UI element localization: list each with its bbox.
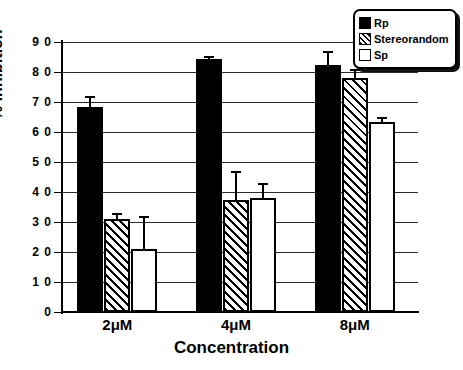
legend-label: Rp — [374, 17, 389, 29]
error-bar-sp-4μM — [262, 183, 264, 198]
error-bar-sp-2μM — [143, 216, 145, 249]
error-cap-rp-2μM — [85, 96, 95, 98]
open-white-icon — [359, 49, 371, 61]
y-tick-label-50: 5 0 — [18, 157, 52, 167]
y-tick-80 — [54, 72, 62, 73]
error-bar-rp-8μM — [327, 51, 329, 65]
error-cap-rp-4μM — [204, 56, 214, 58]
chart-legend: RpStereorandomSp — [353, 9, 457, 69]
bar-sp-8μM — [369, 122, 395, 313]
bar-rp-2μM — [77, 107, 103, 313]
legend-label: Stereorandom — [374, 33, 449, 45]
y-tick-label-30: 3 0 — [18, 217, 52, 227]
y-tick-label-40: 4 0 — [18, 187, 52, 197]
y-tick-0 — [54, 312, 62, 313]
y-tick-label-0: 0 — [18, 307, 52, 317]
y-tick-40 — [54, 192, 62, 193]
bar-chart-figure: % Inhibition 01 02 03 04 05 06 07 08 09 … — [0, 0, 463, 370]
y-tick-90 — [54, 42, 62, 43]
x-axis-title: Concentration — [0, 338, 463, 358]
bar-stereorandom-4μM — [223, 200, 249, 313]
legend-item-sp: Sp — [359, 47, 451, 63]
solid-black-icon — [359, 17, 371, 29]
legend-item-stereorandom: Stereorandom — [359, 31, 451, 47]
y-axis-title: % Inhibition — [0, 29, 6, 120]
x-tick-label-2μM: 2μM — [72, 316, 162, 333]
hatched-icon — [359, 33, 371, 45]
bar-rp-8μM — [315, 65, 341, 313]
y-tick-50 — [54, 162, 62, 163]
error-bar-stereorandom-4μM — [235, 171, 237, 200]
x-tick-label-8μM: 8μM — [310, 316, 400, 333]
error-cap-stereorandom-4μM — [231, 171, 241, 173]
legend-item-rp: Rp — [359, 15, 451, 31]
bar-rp-4μM — [196, 59, 222, 313]
error-cap-sp-8μM — [377, 117, 387, 119]
bar-sp-2μM — [131, 249, 157, 312]
y-tick-60 — [54, 132, 62, 133]
plot-area — [62, 42, 418, 312]
y-tick-10 — [54, 282, 62, 283]
bar-stereorandom-8μM — [342, 78, 368, 312]
bar-stereorandom-2μM — [104, 219, 130, 312]
error-cap-stereorandom-8μM — [350, 69, 360, 71]
y-tick-label-80: 8 0 — [18, 67, 52, 77]
y-tick-20 — [54, 252, 62, 253]
gridline-80 — [62, 72, 418, 73]
y-tick-label-70: 7 0 — [18, 97, 52, 107]
error-cap-rp-8μM — [323, 51, 333, 53]
y-tick-30 — [54, 222, 62, 223]
y-tick-label-90: 9 0 — [18, 37, 52, 47]
y-tick-label-20: 2 0 — [18, 247, 52, 257]
y-tick-70 — [54, 102, 62, 103]
error-cap-sp-2μM — [139, 216, 149, 218]
error-cap-sp-4μM — [258, 183, 268, 185]
y-tick-label-10: 1 0 — [18, 277, 52, 287]
bar-sp-4μM — [250, 198, 276, 312]
y-tick-label-60: 6 0 — [18, 127, 52, 137]
error-cap-stereorandom-2μM — [112, 213, 122, 215]
legend-label: Sp — [374, 49, 388, 61]
x-tick-label-4μM: 4μM — [191, 316, 281, 333]
